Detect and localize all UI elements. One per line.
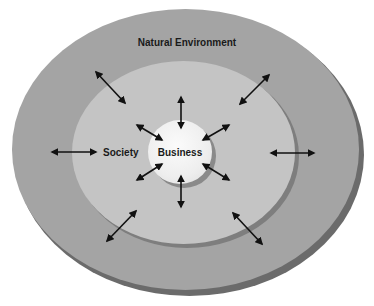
arrow-society-env-lower-right <box>233 213 262 244</box>
arrow-society-env-upper-left <box>96 72 125 103</box>
society-label: Society <box>103 147 139 158</box>
arrow-business-society-lower-left <box>137 164 162 180</box>
arrow-business-society-upper-left <box>137 125 162 140</box>
natural-environment-label: Natural Environment <box>0 37 374 48</box>
business-label: Business <box>148 147 212 158</box>
arrow-business-society-upper-right <box>203 125 229 140</box>
arrow-business-society-lower-right <box>203 164 229 180</box>
arrow-society-env-lower-left <box>107 211 136 241</box>
arrow-society-env-upper-right <box>240 75 269 104</box>
